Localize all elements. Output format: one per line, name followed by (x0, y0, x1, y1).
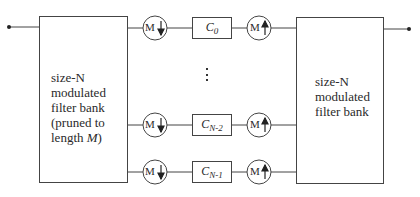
downsampler-label: M (145, 118, 155, 130)
upsampler-label: M (250, 118, 260, 130)
downsampler-label: M (145, 165, 155, 177)
down-arrow-icon (158, 21, 164, 179)
input-node-dot (7, 25, 11, 29)
analysis-bank-label: size-N modulated filter bank (pruned to … (51, 70, 106, 145)
synthesis-bank-label: size-N modulated filter bank (315, 74, 370, 119)
up-arrow-icon (262, 21, 268, 179)
coef-label-n-2: CN-2 (192, 117, 232, 133)
coef-label-0: C0 (192, 20, 232, 36)
downsampler-label: M (145, 21, 155, 33)
upsampler-label: M (250, 165, 260, 177)
coef-label-n-1: CN-1 (192, 164, 232, 180)
ellipsis-icon (206, 68, 208, 81)
output-node-dot (407, 27, 411, 31)
upsampler-label: M (250, 21, 260, 33)
